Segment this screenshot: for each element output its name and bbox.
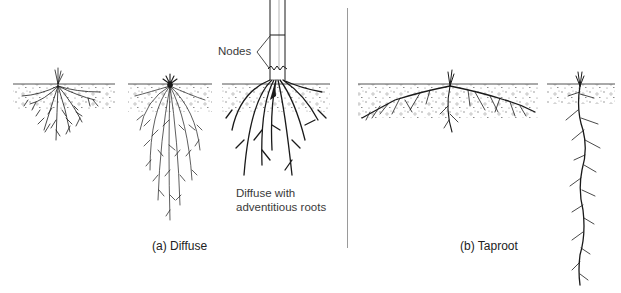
caption-diffuse: (a) Diffuse — [152, 239, 207, 253]
stem — [268, 0, 287, 80]
adventitious-annotation-line-2: adventitious roots — [236, 200, 326, 214]
nodes-callout — [257, 36, 270, 68]
adventitious-annotation-line-1: Diffuse with — [236, 186, 295, 200]
deep-taproot-illustration — [547, 72, 615, 285]
shallow-spreading-taproot-illustration — [358, 70, 538, 132]
root-systems-diagram — [0, 0, 621, 293]
panel-divider — [347, 8, 348, 248]
caption-taproot: (b) Taproot — [460, 239, 518, 253]
adventitious-root-illustration — [222, 0, 330, 175]
deep-fibrous-root-illustration — [128, 74, 212, 220]
nodes-label: Nodes — [218, 44, 251, 58]
shallow-fibrous-root-illustration — [13, 68, 115, 140]
